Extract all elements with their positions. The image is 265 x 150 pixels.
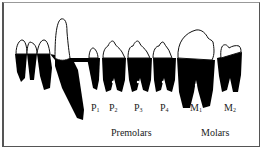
p3-root (127, 58, 152, 92)
p1-crown (89, 48, 98, 58)
p4-crown (153, 42, 172, 58)
m1-root (177, 58, 215, 108)
tooth-label-m1: M1 (190, 102, 202, 113)
incisor-root-2 (27, 54, 37, 80)
tooth-label-m2: M2 (224, 102, 236, 113)
p2-root (102, 58, 126, 92)
tooth-label-p3: P3 (134, 102, 143, 113)
tooth-label-p4: P4 (160, 102, 169, 113)
group-label-premolars: Premolars (111, 127, 152, 138)
tooth-label-p1: P1 (91, 102, 100, 113)
incisor-root-3 (37, 54, 52, 90)
tooth-label-p2: P2 (109, 102, 118, 113)
canine-crown (55, 19, 70, 60)
p4-root (153, 58, 176, 92)
group-label-molars: Molars (201, 127, 229, 138)
incisor-crown-1 (16, 40, 27, 54)
canine-root (55, 58, 84, 120)
p1-root (87, 58, 100, 90)
p3-crown (128, 41, 150, 58)
incisor-crown-3 (37, 40, 50, 54)
m1-crown (178, 30, 214, 60)
incisor-crown-2 (27, 42, 37, 54)
incisor-root-1 (15, 54, 27, 82)
p2-crown (103, 41, 125, 58)
